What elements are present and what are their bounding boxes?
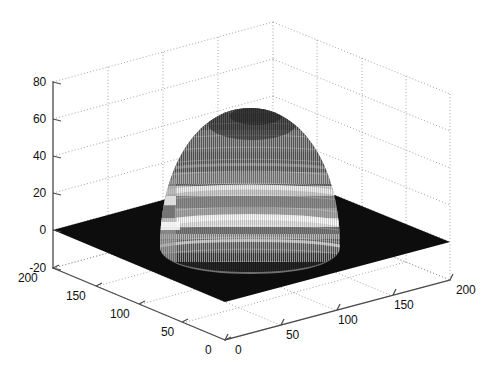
y-tick-label-200: 200 — [18, 272, 37, 284]
z-tick-label-60: 60 — [12, 113, 46, 125]
x-tick-label-200: 200 — [456, 284, 475, 296]
y-tick-label-50: 50 — [161, 326, 174, 338]
surface-plot-figure: 80 60 40 20 0 -20 200 150 100 50 0 0 50 … — [0, 0, 497, 382]
x-tick-label-50: 50 — [286, 329, 299, 341]
y-tick-label-100: 100 — [110, 308, 129, 320]
dome-surface — [150, 104, 350, 284]
x-tick-label-150: 150 — [394, 299, 413, 311]
plot-canvas — [0, 0, 497, 382]
z-tick-label-20: 20 — [12, 187, 46, 199]
y-tick-label-0: 0 — [205, 344, 211, 356]
x-tick-label-0: 0 — [235, 344, 241, 356]
z-axis-ticks — [53, 82, 61, 270]
x-tick-label-100: 100 — [338, 314, 357, 326]
dome-cap-shadow — [208, 107, 296, 140]
z-tick-label-0: 0 — [12, 224, 46, 236]
y-tick-label-150: 150 — [66, 290, 85, 302]
z-tick-label-40: 40 — [12, 150, 46, 162]
z-tick-label-80: 80 — [12, 76, 46, 88]
